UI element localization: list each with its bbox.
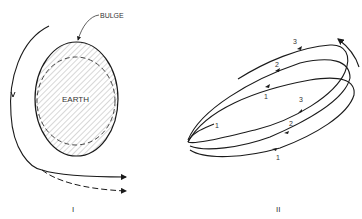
orbit-1 bbox=[188, 78, 354, 156]
orbit-label: 3 bbox=[299, 96, 303, 103]
arrowhead-icon bbox=[275, 68, 280, 72]
arrowhead-icon bbox=[284, 131, 289, 134]
panel-ii-caption: II bbox=[276, 205, 280, 214]
panel-i-caption: I bbox=[72, 205, 74, 214]
orbit-label: 2 bbox=[275, 61, 279, 68]
bulge-label: BULGE bbox=[100, 12, 124, 19]
orbit-label: 3 bbox=[293, 38, 297, 45]
panel-ii-labels: 3 2 1 3 2 1 1 II bbox=[215, 38, 303, 214]
orbit-label: 1 bbox=[264, 93, 268, 100]
arrowhead-icon bbox=[298, 109, 302, 113]
orbit-2 bbox=[188, 60, 350, 149]
orbit-label: 1 bbox=[276, 154, 280, 161]
panel-i: EARTH BULGE I bbox=[11, 12, 126, 214]
orbit-label: 2 bbox=[289, 120, 293, 127]
direction-arrow-icon bbox=[11, 92, 15, 97]
arrowhead-icon bbox=[297, 46, 302, 50]
orbit-label: 1 bbox=[215, 122, 219, 129]
bulge-annotation: BULGE bbox=[78, 12, 124, 40]
arrowhead-icon bbox=[265, 84, 270, 88]
earth-body: EARTH bbox=[35, 42, 118, 156]
panel-ii bbox=[188, 39, 359, 157]
earth-label: EARTH bbox=[62, 95, 89, 104]
diagram-canvas: EARTH BULGE I bbox=[0, 0, 362, 219]
